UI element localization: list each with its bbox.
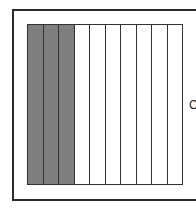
shaded-column	[44, 25, 60, 184]
unshaded-column	[90, 25, 106, 184]
unshaded-column	[106, 25, 122, 184]
shaded-column	[28, 25, 44, 184]
unshaded-column	[168, 25, 183, 184]
unshaded-column	[121, 25, 137, 184]
unshaded-column	[137, 25, 153, 184]
option-label: C	[189, 99, 196, 111]
fraction-grid	[27, 24, 183, 185]
unshaded-column	[75, 25, 91, 184]
unshaded-column	[152, 25, 168, 184]
shaded-column	[59, 25, 75, 184]
